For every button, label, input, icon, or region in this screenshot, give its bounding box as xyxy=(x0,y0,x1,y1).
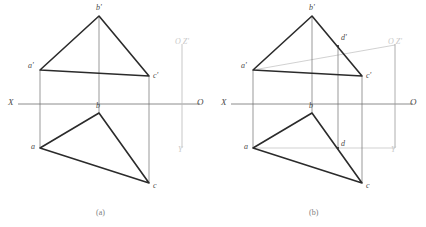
panel-a-label-c: c xyxy=(153,182,157,190)
panel-a-graphics xyxy=(18,16,200,183)
panel-a-label-a: a xyxy=(31,143,35,151)
point-d-prime xyxy=(337,45,339,47)
panel-a-top-triangle xyxy=(40,113,149,183)
panel-b-profile-top-label: O Z' xyxy=(388,38,402,46)
panel-a-label-b: b xyxy=(96,102,100,110)
panel-b-label-c: c xyxy=(366,182,370,190)
panel-a-profile-bottom-label: Y xyxy=(178,146,182,154)
panel-a-projection-lines xyxy=(40,16,149,183)
panel-b-label-d: d xyxy=(341,140,345,148)
panel-a-axis-label-o: O xyxy=(197,98,204,106)
panel-b-label-a: a xyxy=(244,143,248,151)
panel-a-axis-label-x: X xyxy=(8,98,14,106)
panel-b-graphics xyxy=(231,16,413,183)
geometry-drawing xyxy=(0,0,426,227)
panel-b-axis-label-x: X xyxy=(221,98,227,106)
panel-a-front-triangle xyxy=(40,16,149,76)
caption-a: (a) xyxy=(96,208,105,217)
panel-b-label-c-prime: c' xyxy=(366,72,371,80)
panel-b-label-a-prime: a' xyxy=(241,62,247,70)
panel-b-label-b-prime: b' xyxy=(309,4,315,12)
aux-line-front-ad xyxy=(253,45,395,70)
panel-a-profile-top-label: O Z' xyxy=(175,38,189,46)
panel-b-label-b: b xyxy=(309,102,313,110)
panel-b-profile-bottom-label: Y xyxy=(391,146,395,154)
point-d xyxy=(337,147,339,149)
figure-canvas: X O O Z' Y a' b' c' a b c X O O Z' Y a' … xyxy=(0,0,426,227)
panel-a-label-a-prime: a' xyxy=(28,62,34,70)
panel-b-label-d-prime: d' xyxy=(341,34,347,42)
panel-b-construction-lines xyxy=(253,45,395,148)
panel-a-label-c-prime: c' xyxy=(153,72,158,80)
panel-b-axis-label-o: O xyxy=(410,98,417,106)
panel-a-label-b-prime: b' xyxy=(96,4,102,12)
caption-b: (b) xyxy=(309,208,318,217)
